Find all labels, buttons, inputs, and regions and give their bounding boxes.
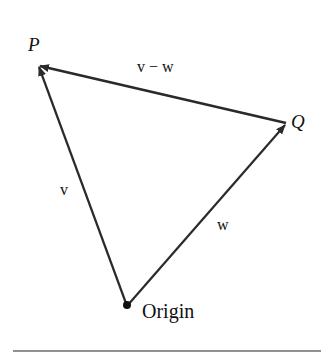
- origin-point: [123, 301, 131, 309]
- origin-label: Origin: [142, 300, 194, 323]
- vector-diagram: P Q Origin v w v − w: [0, 0, 333, 355]
- vector-v-label: v: [60, 181, 68, 198]
- vector-w-label: w: [217, 216, 229, 233]
- point-p-label: P: [27, 34, 40, 55]
- point-q-label: Q: [291, 111, 305, 132]
- vector-w-arrow: [127, 125, 285, 306]
- vector-v-minus-w-label: v − w: [137, 58, 174, 75]
- vector-v-arrow: [39, 67, 127, 306]
